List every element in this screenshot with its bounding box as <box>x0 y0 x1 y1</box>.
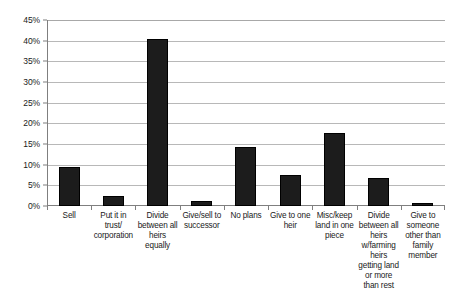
bar-slot <box>312 20 356 206</box>
x-axis-tick-cell <box>268 206 312 210</box>
x-axis-tick-cell <box>47 206 91 210</box>
y-axis-tick-label: 30% <box>23 78 40 87</box>
bar[interactable] <box>368 178 389 206</box>
y-axis: 45%40%35%30%25%20%15%10%5%0% <box>0 0 47 206</box>
x-axis-tick-mark <box>444 206 445 210</box>
x-axis-labels: SellPut it in trust/ corporationDivide b… <box>47 211 445 291</box>
x-axis-category-label: Give/sell to successor <box>180 211 224 291</box>
y-axis-tick-label: 15% <box>23 140 40 149</box>
bar-slot <box>401 20 445 206</box>
y-axis-tick-label: 20% <box>23 119 40 128</box>
y-axis-tick-label: 35% <box>23 57 40 66</box>
x-axis-category-label: Sell <box>47 211 91 291</box>
x-axis-tick-mark <box>401 206 402 210</box>
y-axis-tick-label: 10% <box>23 160 40 169</box>
bar-slot <box>135 20 179 206</box>
bar-slot <box>91 20 135 206</box>
bar[interactable] <box>147 39 168 206</box>
bar-slot <box>47 20 91 206</box>
x-axis-tick-mark <box>268 206 269 210</box>
bar-series <box>47 20 445 206</box>
x-axis-tick-cell <box>135 206 179 210</box>
x-axis-tick-mark <box>224 206 225 210</box>
x-axis-tick-cell <box>401 206 445 210</box>
x-axis-tick-cell <box>224 206 268 210</box>
x-axis-tick-cell <box>180 206 224 210</box>
x-axis-tick-mark <box>91 206 92 210</box>
x-axis-tick-cell <box>357 206 401 210</box>
x-axis-tick-mark <box>47 206 48 210</box>
bar[interactable] <box>103 196 124 206</box>
y-axis-tick-label: 45% <box>23 16 40 25</box>
x-axis-category-label: Give to someone other than family member <box>401 211 445 291</box>
x-axis-tick-cell <box>312 206 356 210</box>
bar-slot <box>224 20 268 206</box>
bar[interactable] <box>280 175 301 206</box>
y-axis-tick-label: 0% <box>28 202 40 211</box>
x-axis-tick-mark <box>180 206 181 210</box>
y-axis-tick-label: 40% <box>23 36 40 45</box>
x-axis-tick-cell <box>91 206 135 210</box>
x-axis-tick-mark <box>135 206 136 210</box>
plot-area <box>47 20 445 206</box>
x-axis-tick-mark <box>312 206 313 210</box>
y-axis-tick-label: 25% <box>23 98 40 107</box>
bar-slot <box>268 20 312 206</box>
bar-slot <box>357 20 401 206</box>
x-axis-category-label: Put it in trust/ corporation <box>91 211 135 291</box>
x-axis-tick-mark <box>357 206 358 210</box>
x-axis-category-label: Divide between all heirs w/farming heirs… <box>357 211 401 291</box>
bar-slot <box>180 20 224 206</box>
bar[interactable] <box>59 167 80 206</box>
x-axis-ticks <box>47 206 445 210</box>
y-axis-tick-label: 5% <box>28 181 40 190</box>
x-axis-category-label: Misc/keep land in one piece <box>312 211 356 291</box>
x-axis-category-label: Divide between all heirs equally <box>135 211 179 291</box>
x-axis-category-label: No plans <box>224 211 268 291</box>
bar[interactable] <box>324 133 345 206</box>
bar[interactable] <box>235 147 256 206</box>
x-axis-category-label: Give to one heir <box>268 211 312 291</box>
